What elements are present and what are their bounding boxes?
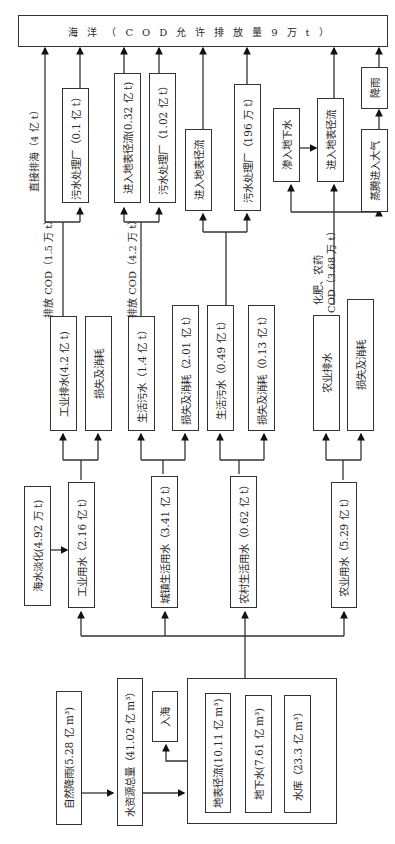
rural-runoff-box: 进入地表径流	[185, 129, 212, 211]
ocean-label: 海洋（COD允许排放量9万t）	[68, 24, 337, 39]
urban-loss-box: 损失及消耗（2.01 亿 t）	[172, 305, 199, 431]
industrial-discharge-box: 工业排水(4.2 亿 t)	[50, 316, 77, 431]
ind-treatment-box: 污水处理厂（0.1 亿 t）	[62, 88, 89, 203]
groundwater-box: 地下水(7.61 亿 m³)	[245, 695, 272, 813]
rural-treatment-box: 污水处理厂（196 万 t）	[234, 84, 261, 211]
reservoir-box: 水库（23.3 亿 m³）	[284, 695, 311, 813]
direct-discharge-label: 直接排海（4 亿 t）	[29, 105, 41, 192]
into-sea-box: 入海	[152, 691, 178, 742]
agri-loss-box: 损失及消耗	[347, 299, 374, 431]
industrial-cod-label: 排放 COD（1.5 万 t）	[43, 215, 55, 318]
agri-rain-box: 降雨	[361, 67, 388, 109]
desalination-box: 海水淡化(4.92 万 t)	[24, 486, 51, 606]
urban-sewage-box: 生活污水（1.4 亿 t）	[128, 316, 155, 431]
industrial-loss-box: 损失及消耗	[85, 316, 112, 431]
rural-sewage-box: 生活污水（0.49 亿 t）	[207, 305, 234, 431]
industrial-use-box: 工业用水（2.16 亿 t）	[68, 482, 95, 608]
agri-cod-label-1: 化肥、农药	[313, 255, 325, 305]
rural-loss-box: 损失及消耗（0.13 亿 t）	[248, 305, 275, 431]
ocean-box: 海洋（COD允许排放量9万t）	[18, 15, 388, 47]
agricultural-use-box: 农业用水（5.29 亿 t）	[331, 482, 357, 608]
surface-runoff-box: 地表径流(10.11 亿 m³)	[205, 693, 231, 813]
agri-evaporate-box: 蒸腾进入大气	[361, 129, 388, 212]
urban-domestic-box: 城镇生活用水（3.41 亿 t）	[151, 476, 178, 608]
agri-runoff-box: 进入地表径流	[317, 98, 344, 182]
agri-cod-label-2: COD（3.68 万 t）	[326, 226, 338, 313]
natural-rainfall-box: 自然降雨(5.28 亿 m³)	[56, 691, 82, 825]
total-water-box: 水资源总量（41.02 亿 m³）	[117, 678, 143, 826]
rural-domestic-box: 农村生活用水（0.62 亿 t）	[230, 476, 257, 608]
agri-infiltrate-box: 渗入地下水	[273, 108, 300, 182]
urban-treatment-box: 污水处理厂（1.02 亿 t）	[149, 73, 176, 203]
agri-drainage-box: 农业排水	[313, 315, 340, 431]
urban-runoff-box: 进入地表径流(0.32 亿 t)	[114, 73, 141, 203]
urban-cod-label: 排放 COD（4.2 万 t）	[127, 215, 139, 318]
